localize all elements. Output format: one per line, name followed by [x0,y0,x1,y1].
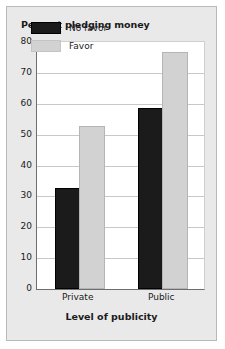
chart-figure: Percent pledging money 01020304050607080… [6,6,217,341]
legend-swatch-icon [31,40,61,52]
y-tick-label: 40 [21,160,32,170]
x-tick-label-private: Private [62,292,93,302]
legend-label: No favor [69,23,107,33]
y-tick-label: 30 [21,190,32,200]
x-tick-label-public: Public [148,292,175,302]
y-tick-label: 0 [26,283,32,293]
legend-label: Favor [69,41,93,51]
legend-swatch-icon [31,22,61,34]
bar-public-favor [162,52,188,289]
y-tick-label: 70 [21,67,32,77]
legend-item-no-favor: No favor [31,20,107,35]
bar-private-favor [79,126,105,289]
y-tick-label: 10 [21,252,32,262]
bar-series-layer [37,42,204,289]
y-tick-label: 20 [21,221,32,231]
chart-legend: No favorFavor [31,20,107,56]
plot-area [36,41,205,290]
bar-public-no-favor [138,108,164,289]
bar-private-no-favor [55,188,81,289]
legend-item-favor: Favor [31,38,107,53]
x-axis-title: Level of publicity [7,311,216,322]
y-tick-label: 60 [21,98,32,108]
y-tick-label: 50 [21,129,32,139]
y-axis-tick-labels: 01020304050607080 [7,41,32,288]
